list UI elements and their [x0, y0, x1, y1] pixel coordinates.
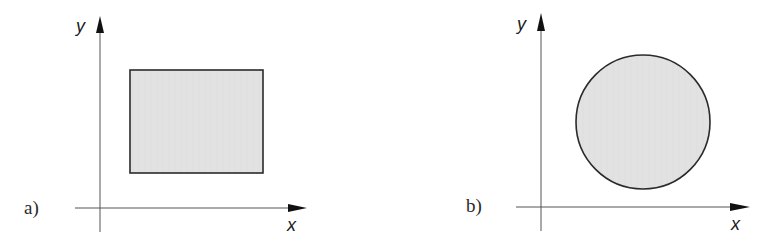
x-axis-label: x	[286, 215, 297, 235]
y-axis-arrow-icon	[96, 16, 104, 33]
x-axis-arrow-icon	[288, 204, 307, 212]
rectangle-shape	[130, 70, 263, 173]
x-axis-label: x	[730, 214, 741, 234]
circle-shape	[576, 55, 710, 189]
x-axis-arrow-icon	[730, 203, 750, 211]
panel-b: y x b)	[466, 13, 750, 234]
y-axis-label: y	[74, 16, 86, 36]
panel-a: y x a)	[24, 16, 307, 235]
panel-label: b)	[466, 195, 482, 217]
panel-label: a)	[24, 197, 39, 219]
figure: y x a) y x b)	[0, 0, 767, 245]
y-axis-label: y	[515, 14, 527, 34]
y-axis-arrow-icon	[537, 13, 545, 31]
